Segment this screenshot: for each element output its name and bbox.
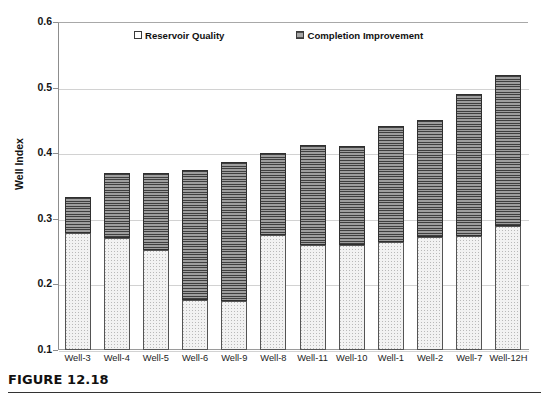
bar-segment-completion-improvement[interactable] — [300, 145, 326, 245]
bar-segment-reservoir-quality[interactable] — [182, 300, 208, 351]
y-axis-title: Well Index — [13, 119, 25, 209]
bar-segment-reservoir-quality[interactable] — [378, 242, 404, 350]
x-axis-tick-labels: Well-3Well-4Well-5Well-6Well-9Well-8Well… — [58, 353, 528, 369]
bar-segment-reservoir-quality[interactable] — [260, 235, 286, 350]
bar-segment-completion-improvement[interactable] — [456, 94, 482, 236]
y-axis-tick-label: 0.4 — [14, 146, 52, 158]
bars-layer — [58, 22, 528, 350]
y-axis-tick-label: 0.5 — [14, 81, 52, 93]
bar-segment-completion-improvement[interactable] — [65, 197, 91, 233]
bar-segment-completion-improvement[interactable] — [417, 120, 443, 236]
bar-segment-reservoir-quality[interactable] — [65, 233, 91, 350]
bar-segment-reservoir-quality[interactable] — [221, 301, 247, 350]
y-axis-tick-label: 0.6 — [14, 15, 52, 27]
y-axis-tick-label: 0.3 — [14, 212, 52, 224]
bar-group[interactable] — [260, 153, 286, 350]
figure-caption: FIGURE 12.18 — [8, 372, 109, 387]
bar-segment-reservoir-quality[interactable] — [104, 238, 130, 350]
bar-segment-reservoir-quality[interactable] — [339, 245, 365, 350]
y-axis-tick-label: 0.2 — [14, 277, 52, 289]
bar-segment-completion-improvement[interactable] — [495, 75, 521, 227]
bar-group[interactable] — [456, 94, 482, 350]
bar-group[interactable] — [182, 170, 208, 350]
bar-segment-completion-improvement[interactable] — [260, 153, 286, 234]
bar-segment-reservoir-quality[interactable] — [456, 236, 482, 350]
bar-segment-completion-improvement[interactable] — [182, 170, 208, 299]
bar-segment-reservoir-quality[interactable] — [300, 245, 326, 350]
bar-group[interactable] — [221, 162, 247, 350]
gridline — [59, 351, 529, 352]
bar-group[interactable] — [417, 120, 443, 350]
bar-group[interactable] — [65, 197, 91, 350]
caption-divider — [8, 392, 541, 393]
bar-group[interactable] — [143, 173, 169, 350]
bar-segment-reservoir-quality[interactable] — [417, 237, 443, 350]
y-axis-tick-label: 0.1 — [14, 343, 52, 355]
bar-segment-completion-improvement[interactable] — [143, 173, 169, 250]
y-axis-tick-mark — [53, 350, 58, 351]
bar-segment-completion-improvement[interactable] — [378, 126, 404, 242]
bar-segment-completion-improvement[interactable] — [221, 162, 247, 302]
bar-group[interactable] — [300, 145, 326, 350]
bar-segment-completion-improvement[interactable] — [104, 173, 130, 239]
bar-segment-completion-improvement[interactable] — [339, 146, 365, 245]
bar-group[interactable] — [495, 74, 521, 350]
figure-container: Well Index 0.60.50.40.30.20.1 Reservoir … — [0, 0, 549, 398]
bar-group[interactable] — [104, 173, 130, 350]
bar-group[interactable] — [378, 126, 404, 350]
x-axis-tick-label: Well-12H — [482, 353, 534, 363]
bar-group[interactable] — [339, 146, 365, 350]
chart-canvas: Well Index 0.60.50.40.30.20.1 Reservoir … — [0, 0, 549, 368]
bar-segment-reservoir-quality[interactable] — [495, 226, 521, 350]
bar-segment-reservoir-quality[interactable] — [143, 250, 169, 350]
